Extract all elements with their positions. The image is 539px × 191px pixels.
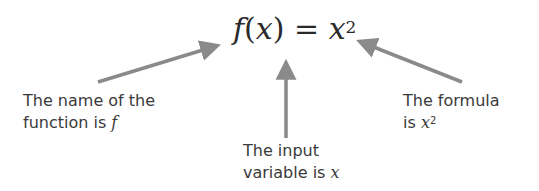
- label-exponent: 2: [430, 115, 436, 126]
- label-line-1: The formula: [403, 90, 500, 112]
- label-symbol: f: [111, 113, 117, 132]
- open-paren: (: [244, 11, 256, 46]
- formula-exponent: 2: [346, 17, 357, 37]
- function-equation: f(x) = x2: [233, 14, 356, 44]
- close-paren-equals: ) =: [273, 11, 329, 46]
- label-line-2: variable is x: [243, 162, 340, 184]
- label-line-1: The name of the: [23, 90, 155, 112]
- function-name: f: [233, 11, 244, 46]
- formula-base: x: [329, 11, 346, 46]
- label-line-1: The input: [243, 140, 340, 162]
- label-symbol: x: [331, 163, 340, 182]
- label-line-2: function is f: [23, 112, 155, 134]
- label-symbol: x: [421, 113, 430, 132]
- arrow-to-function-name: [98, 46, 216, 82]
- label-text: is: [403, 113, 421, 132]
- label-function-name: The name of the function is f: [23, 90, 155, 134]
- input-variable: x: [256, 11, 273, 46]
- label-input-variable: The input variable is x: [243, 140, 340, 184]
- label-text: function is: [23, 113, 111, 132]
- arrow-to-formula: [361, 42, 462, 82]
- label-line-2: is x2: [403, 112, 500, 134]
- label-text: variable is: [243, 163, 331, 182]
- label-formula: The formula is x2: [403, 90, 500, 134]
